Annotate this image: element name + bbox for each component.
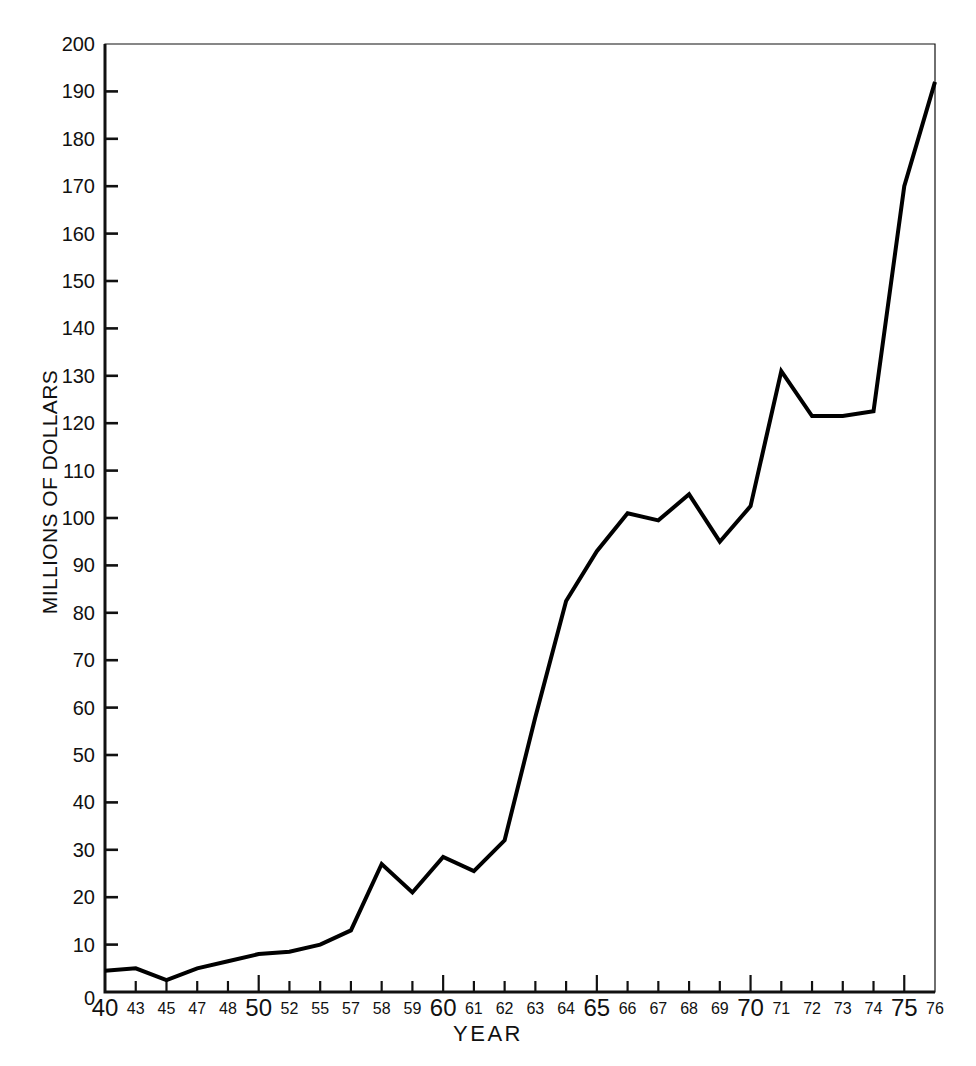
y-axis-ticks	[105, 91, 118, 944]
x-axis-tick-label: 76	[913, 1001, 957, 1017]
y-axis-tick-label: 160	[62, 224, 95, 244]
x-axis-title: YEAR	[0, 1021, 976, 1047]
plot-frame	[105, 44, 935, 992]
plot-area	[0, 0, 976, 1066]
y-axis-tick-label: 60	[73, 698, 95, 718]
x-axis-ticks	[136, 975, 905, 992]
y-axis-tick-label: 20	[73, 887, 95, 907]
y-axis-tick-label: 110	[63, 461, 95, 481]
y-axis-title: MILLIONS OF DOLLARS	[38, 282, 62, 702]
y-axis-tick-label: 140	[62, 318, 95, 338]
y-axis-tick-label: 70	[73, 650, 95, 670]
y-axis-tick-label: 30	[73, 840, 95, 860]
y-axis-tick-label: 180	[62, 129, 95, 149]
y-axis-tick-label: 50	[73, 745, 95, 765]
y-axis-tick-label: 200	[62, 34, 95, 54]
y-axis-tick-label: 90	[73, 555, 95, 575]
y-axis-tick-label: 80	[73, 603, 95, 623]
line-chart-figure: MILLIONS OF DOLLARS YEAR 010203040506070…	[0, 0, 976, 1066]
y-axis-tick-label: 170	[62, 176, 95, 196]
y-axis-tick-label: 150	[62, 271, 95, 291]
y-axis-tick-label: 100	[62, 508, 95, 528]
y-axis-tick-label: 10	[73, 935, 95, 955]
data-series-line	[105, 82, 935, 980]
y-axis-tick-label: 40	[73, 792, 95, 812]
y-axis-tick-label: 190	[62, 81, 95, 101]
y-axis-tick-label: 130	[62, 366, 95, 386]
plot-axis-lines	[105, 44, 935, 992]
y-axis-tick-label: 120	[62, 413, 95, 433]
